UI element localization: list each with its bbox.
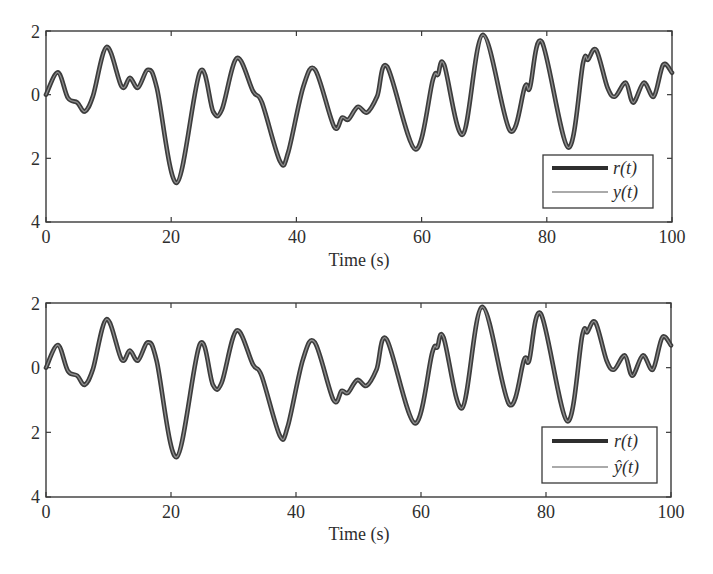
- x-axis-title: Time (s): [329, 250, 390, 271]
- xtick-label: 60: [413, 227, 431, 247]
- legend-box: [542, 427, 657, 483]
- ytick-label: 4: [31, 487, 40, 507]
- legend-label-r: r(t): [613, 158, 637, 179]
- ytick-label: 0: [31, 358, 40, 378]
- legend-label-r: r(t): [614, 431, 638, 452]
- xtick-label: 40: [288, 227, 306, 247]
- xtick-label: 0: [42, 227, 51, 247]
- ytick-label: 2: [31, 423, 40, 443]
- xtick-label: 60: [412, 502, 430, 522]
- xtick-label: 80: [537, 502, 555, 522]
- legend: r(t) y(t): [543, 155, 653, 208]
- ytick-label: 4: [31, 212, 40, 232]
- xtick-label: 100: [659, 227, 686, 247]
- xtick-label: 40: [287, 502, 305, 522]
- ytick-label: 2: [31, 294, 40, 314]
- legend-label-y: y(t): [611, 182, 638, 203]
- ytick-label: 2: [31, 22, 40, 42]
- legend: r(t) ŷ(t): [542, 427, 657, 483]
- xtick-label: 100: [658, 502, 685, 522]
- xtick-label: 20: [162, 502, 180, 522]
- xtick-label: 20: [162, 227, 180, 247]
- top-plot: 2 0 2 4 0 20 40 60 80 100 Time (s) r(t) …: [31, 22, 686, 271]
- ytick-label: 2: [31, 149, 40, 169]
- xtick-label: 80: [538, 227, 556, 247]
- xtick-label: 0: [42, 502, 51, 522]
- legend-label-yhat: ŷ(t): [612, 457, 639, 478]
- figure: 2 0 2 4 0 20 40 60 80 100 Time (s) r(t) …: [0, 0, 713, 574]
- x-axis-title: Time (s): [329, 524, 390, 545]
- ytick-label: 0: [31, 85, 40, 105]
- bottom-plot: 2 0 2 4 0 20 40 60 80 100 Time (s) r(t) …: [31, 294, 685, 545]
